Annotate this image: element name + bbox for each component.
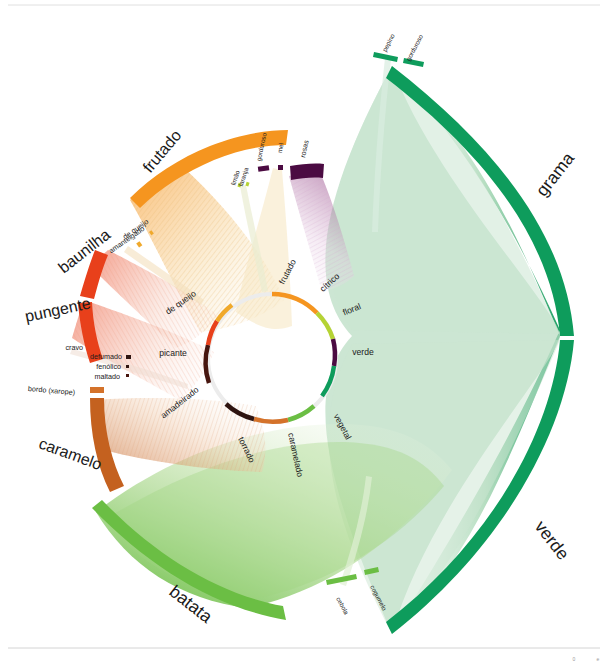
outer-label-cravo: cravo bbox=[65, 343, 83, 352]
inner-seg-caramelado[interactable] bbox=[254, 419, 288, 422]
bottom-axis: 0 e bbox=[8, 648, 600, 662]
outer-label-defumado: defumado bbox=[90, 352, 122, 361]
inner-label-verde: verde bbox=[352, 347, 374, 357]
outer-arc-maltado bbox=[126, 374, 129, 377]
outer-arc-gorduroso-floral bbox=[258, 165, 270, 171]
outer-arc-rosas[interactable] bbox=[290, 164, 324, 180]
axis-tick-1: e bbox=[597, 656, 600, 662]
outer-label-maltado: maltado bbox=[94, 372, 120, 381]
inner-label-picante: picante bbox=[159, 348, 187, 358]
outer-arc-defumado bbox=[126, 355, 131, 359]
outer-arc-bordo[interactable] bbox=[90, 387, 104, 393]
outer-label-verde: verde bbox=[531, 517, 574, 564]
outer-label-pepino: pepino bbox=[381, 32, 397, 53]
outer-arc-fenolico bbox=[126, 365, 129, 368]
inner-seg-citrico[interactable] bbox=[317, 313, 333, 339]
outer-label-mel: mel bbox=[276, 142, 285, 153]
outer-label-rosas: rosas bbox=[298, 139, 311, 158]
axis-tick-0: 0 bbox=[573, 656, 576, 662]
inner-seg-floral[interactable] bbox=[333, 339, 335, 366]
outer-label-cebola: cebola bbox=[335, 596, 350, 616]
chord-diagram-canvas: frutado cítrico floral verde vegetal car… bbox=[0, 0, 608, 667]
outer-arc-amanteigado bbox=[136, 241, 142, 247]
ribbon-verde-fan-upper bbox=[329, 66, 560, 334]
outer-arc-mel bbox=[278, 165, 283, 170]
inner-seg-vegetal[interactable] bbox=[288, 406, 314, 420]
outer-label-bordo: bordo (xarope) bbox=[28, 384, 76, 397]
outer-label-gorduroso-top: gorduroso bbox=[404, 33, 425, 63]
outer-label-grama: grama bbox=[532, 148, 578, 200]
ribbon-caramelo-h bbox=[96, 398, 266, 472]
outer-label-fenolico: fenólico bbox=[96, 362, 121, 371]
